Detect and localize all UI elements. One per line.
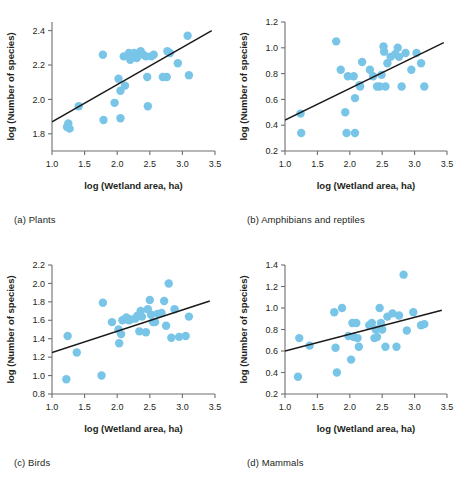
y-tick-label: 0.6 <box>265 346 278 356</box>
x-tick-label: 3.0 <box>176 402 189 412</box>
x-tick-label: 1.0 <box>279 402 292 412</box>
x-tick-label: 1.5 <box>78 159 91 169</box>
x-tick-label: 3.5 <box>441 159 454 169</box>
plot-area-amphibians-reptiles: 0.20.40.60.81.01.21.01.52.02.53.03.5log … <box>233 0 465 243</box>
data-point <box>162 322 170 330</box>
data-point <box>150 50 158 58</box>
x-tick-label: 3.5 <box>209 159 222 169</box>
panel-birds: 0.81.01.21.41.61.82.02.21.01.52.02.53.03… <box>0 243 233 486</box>
data-point <box>351 94 359 102</box>
data-point <box>395 311 403 319</box>
data-point <box>143 73 151 81</box>
data-point <box>99 50 107 58</box>
data-point <box>331 344 339 352</box>
x-tick-label: 2.5 <box>144 159 157 169</box>
x-axis-title: log (Wetland area, ha) <box>317 180 416 191</box>
y-tick-label: 1.4 <box>265 260 278 270</box>
data-point <box>420 320 428 328</box>
x-axis-title: log (Wetland area, ha) <box>84 423 183 434</box>
data-point <box>99 116 107 124</box>
data-point <box>174 59 182 67</box>
y-tick-label: 0.8 <box>265 69 278 79</box>
data-point <box>409 308 417 316</box>
data-point <box>163 73 171 81</box>
data-point <box>116 114 124 122</box>
data-point <box>62 375 70 383</box>
data-point <box>381 82 389 90</box>
data-point <box>392 343 400 351</box>
x-tick-label: 2.5 <box>376 159 389 169</box>
panel-mammals: 0.20.40.60.81.01.21.41.01.52.02.53.03.5l… <box>233 243 465 486</box>
data-point <box>160 297 168 305</box>
data-point <box>108 318 116 326</box>
x-tick-label: 1.5 <box>311 402 324 412</box>
data-point <box>337 66 345 74</box>
y-tick-label: 2.0 <box>32 95 45 105</box>
data-layer <box>285 270 442 381</box>
data-point <box>167 334 175 342</box>
data-point <box>63 332 71 340</box>
data-point <box>358 58 366 66</box>
plot-area-plants: 1.82.02.22.41.01.52.02.53.03.5log (Wetla… <box>0 0 233 243</box>
data-point <box>294 373 302 381</box>
data-point <box>338 304 346 312</box>
y-tick-label: 1.0 <box>265 303 278 313</box>
figure-scatterplot-grid: 1.82.02.22.41.01.52.02.53.03.5log (Wetla… <box>0 0 465 486</box>
y-tick-label: 1.8 <box>32 129 45 139</box>
data-point <box>420 82 428 90</box>
y-tick-label: 2.2 <box>32 260 45 270</box>
data-layer <box>285 37 444 137</box>
data-point <box>165 279 173 287</box>
data-point <box>142 328 150 336</box>
data-point <box>146 296 154 304</box>
x-tick-label: 3.0 <box>408 402 421 412</box>
x-tick-label: 2.5 <box>144 402 157 412</box>
data-point <box>138 312 146 320</box>
y-axis-title: log (Number of species) <box>238 275 249 383</box>
y-tick-label: 1.0 <box>32 371 45 381</box>
data-point <box>185 312 193 320</box>
panel-caption-plants: (a) Plants <box>14 214 56 225</box>
plot-area-mammals: 0.20.40.60.81.01.21.41.01.52.02.53.03.5l… <box>233 243 465 486</box>
regression-line <box>285 310 442 351</box>
data-point <box>144 102 152 110</box>
y-tick-label: 0.4 <box>265 368 278 378</box>
x-tick-label: 2.0 <box>344 159 357 169</box>
data-point <box>353 334 361 342</box>
data-point <box>97 371 105 379</box>
data-point <box>394 44 402 52</box>
data-point <box>341 108 349 116</box>
panel-caption-mammals: (d) Mammals <box>247 457 304 468</box>
y-tick-label: 0.8 <box>32 389 45 399</box>
data-point <box>332 37 340 45</box>
panel-caption-birds: (c) Birds <box>14 457 50 468</box>
data-point <box>73 348 81 356</box>
data-point <box>397 82 405 90</box>
data-point <box>297 129 305 137</box>
x-tick-label: 1.0 <box>279 159 292 169</box>
y-tick-label: 1.2 <box>32 352 45 362</box>
data-point <box>355 343 363 351</box>
x-axis-title: log (Wetland area, ha) <box>317 423 416 434</box>
x-tick-label: 2.5 <box>376 402 389 412</box>
x-axis-title: log (Wetland area, ha) <box>84 180 183 191</box>
plot-area-birds: 0.81.01.21.41.61.82.02.21.01.52.02.53.03… <box>0 243 233 486</box>
x-tick-label: 2.0 <box>111 402 124 412</box>
data-point <box>347 355 355 363</box>
data-point <box>352 319 360 327</box>
x-tick-label: 3.5 <box>209 402 222 412</box>
data-point <box>349 72 357 80</box>
data-layer <box>52 31 212 133</box>
data-point <box>399 270 407 278</box>
y-tick-label: 1.2 <box>265 17 278 27</box>
data-layer <box>52 279 210 383</box>
panel-caption-amphibians-reptiles: (b) Amphibians and reptiles <box>247 214 365 225</box>
data-point <box>99 299 107 307</box>
y-tick-label: 1.6 <box>32 315 45 325</box>
x-tick-label: 1.5 <box>311 159 324 169</box>
y-axis-title: log (Number of species) <box>238 32 249 140</box>
x-tick-label: 2.0 <box>111 159 124 169</box>
x-tick-label: 1.5 <box>78 402 91 412</box>
data-point <box>185 71 193 79</box>
panel-plants: 1.82.02.22.41.01.52.02.53.03.5log (Wetla… <box>0 0 233 243</box>
